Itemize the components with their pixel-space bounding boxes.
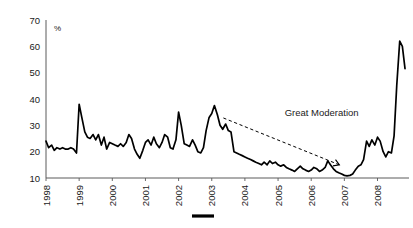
x-axis-tick-1999: 1999 xyxy=(74,185,85,206)
y-axis-tick-30: 30 xyxy=(29,120,40,131)
y-axis-tick-40: 40 xyxy=(29,94,40,105)
y-axis-unit-label: % xyxy=(54,24,61,33)
line-chart: 70605040302010 1998199920002001200220032… xyxy=(0,0,413,228)
x-axis-tick-2005: 2005 xyxy=(273,185,284,206)
x-axis-tick-2008: 2008 xyxy=(372,185,383,206)
y-axis-tick-70: 70 xyxy=(29,15,40,26)
y-axis-tick-10: 10 xyxy=(29,173,40,184)
x-axis-tick-1998: 1998 xyxy=(41,185,52,206)
great-moderation-annotation-label: Great Moderation xyxy=(285,107,359,118)
great-moderation-arrowhead xyxy=(333,160,339,166)
x-axis-tick-2003: 2003 xyxy=(206,185,217,206)
y-axis-tick-labels: 70605040302010 xyxy=(29,15,40,184)
great-moderation-dashed-arrow xyxy=(223,118,339,165)
y-axis-tick-60: 60 xyxy=(29,41,40,52)
x-axis-tick-2001: 2001 xyxy=(140,185,151,206)
x-axis-tick-2000: 2000 xyxy=(107,185,118,206)
y-axis-tick-20: 20 xyxy=(29,146,40,157)
x-axis-tick-2002: 2002 xyxy=(173,185,184,206)
y-axis-tick-50: 50 xyxy=(29,67,40,78)
x-axis-tick-2006: 2006 xyxy=(306,185,317,206)
x-axis-tick-2004: 2004 xyxy=(239,185,250,206)
x-axis-tick-2007: 2007 xyxy=(339,185,350,206)
x-axis-tick-labels: 1998199920002001200220032004200520062007… xyxy=(41,178,384,206)
chart-container: 70605040302010 1998199920002001200220032… xyxy=(0,0,413,228)
